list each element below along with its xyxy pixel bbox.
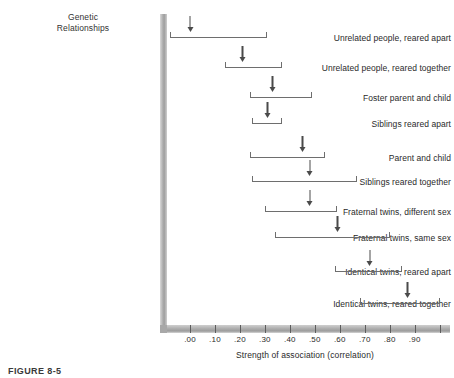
- x-tick-label: .40: [284, 335, 296, 344]
- range-bracket: [225, 62, 282, 68]
- arrow-head: [269, 87, 275, 92]
- range-bracket: [335, 266, 402, 272]
- x-tick-label: .30: [259, 335, 271, 344]
- label-column-header-line2: Relationships: [0, 23, 168, 34]
- x-tick: [315, 325, 316, 333]
- range-bracket: [250, 92, 312, 98]
- arrow-head: [334, 227, 340, 232]
- x-tick: [265, 325, 266, 333]
- x-tick: [415, 325, 416, 333]
- arrow-head: [299, 147, 305, 152]
- range-bracket: [252, 176, 357, 182]
- row-label: Unrelated people, reared together: [286, 63, 454, 73]
- x-axis: [160, 325, 450, 333]
- arrow-head: [239, 57, 245, 62]
- axis-corner: [160, 325, 167, 333]
- arrow-head: [404, 293, 410, 298]
- figure-caption: FIGURE 8-5: [8, 366, 62, 378]
- x-tick: [215, 325, 216, 333]
- x-tick-label: .20: [234, 335, 246, 344]
- arrow-head: [264, 113, 270, 118]
- arrow-head: [367, 261, 373, 266]
- arrow-head: [187, 27, 193, 32]
- x-tick: [290, 325, 291, 333]
- range-bracket: [170, 32, 267, 38]
- label-column-header: Genetic Relationships: [0, 12, 168, 33]
- x-tick: [390, 325, 391, 333]
- row-label: Siblings reared apart: [286, 119, 454, 129]
- y-axis: [160, 14, 167, 325]
- x-tick: [440, 325, 441, 333]
- x-tick-label: .90: [409, 335, 421, 344]
- x-tick: [190, 325, 191, 333]
- x-tick-label: .70: [359, 335, 371, 344]
- correlation-range-figure: Genetic Relationships Unrelated people, …: [0, 0, 454, 378]
- x-axis-title: Strength of association (correlation): [160, 350, 450, 360]
- x-tick-label: .00: [184, 335, 196, 344]
- range-bracket: [275, 232, 390, 238]
- range-bracket: [250, 152, 325, 158]
- row-label: Unrelated people, reared apart: [286, 33, 454, 43]
- x-tick: [340, 325, 341, 333]
- x-tick: [365, 325, 366, 333]
- arrow-head: [307, 171, 313, 176]
- x-tick: [240, 325, 241, 333]
- arrow-head: [307, 201, 313, 206]
- x-tick-label: .80: [384, 335, 396, 344]
- range-bracket: [252, 118, 282, 124]
- label-column-header-line1: Genetic: [0, 12, 168, 23]
- x-tick-label: .50: [309, 335, 321, 344]
- range-bracket: [265, 206, 337, 212]
- x-tick-label: .10: [209, 335, 221, 344]
- x-tick-label: .60: [334, 335, 346, 344]
- range-bracket: [360, 298, 440, 304]
